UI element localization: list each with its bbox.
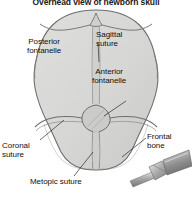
label-sagittal-suture-line1: Sagittal	[96, 30, 122, 39]
metopic-suture-fill	[92, 131, 100, 169]
label-sagittal-suture: Sagittal suture	[96, 30, 122, 48]
label-coronal-suture: Coronal suture	[2, 141, 30, 159]
label-anterior-fontanelle-line1: Anterior	[92, 67, 126, 76]
label-anterior-fontanelle-line2: fontanelle	[92, 76, 126, 85]
metopic-suture-group	[92, 131, 100, 169]
label-coronal-suture-line1: Coronal	[2, 141, 30, 150]
label-coronal-suture-line2: suture	[2, 150, 30, 159]
label-frontal-bone-line2: bone	[147, 141, 172, 150]
label-posterior-fontanelle-line2: fontanelle	[27, 46, 61, 55]
instrument-shaft	[130, 172, 155, 187]
label-metopic-suture: Metopic suture	[30, 177, 82, 186]
label-anterior-fontanelle: Anterior fontanelle	[92, 67, 126, 85]
label-frontal-bone: Frontal bone	[147, 132, 172, 150]
instrument-blade	[163, 150, 192, 175]
surgical-instrument-group	[130, 150, 192, 187]
label-sagittal-suture-line2: suture	[96, 39, 122, 48]
label-posterior-fontanelle: Posterior fontanelle	[27, 37, 61, 55]
newborn-skull-figure: Overhead view of newborn skull	[0, 0, 192, 198]
label-frontal-bone-line1: Frontal	[147, 132, 172, 141]
label-metopic-suture-line1: Metopic suture	[30, 177, 82, 186]
label-posterior-fontanelle-line1: Posterior	[27, 37, 61, 46]
